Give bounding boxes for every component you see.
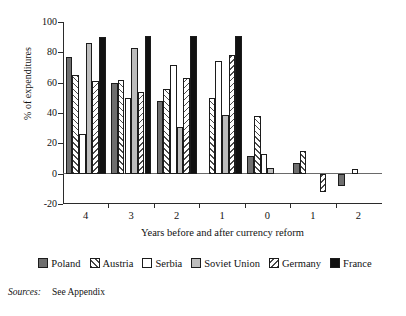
x-tick-label: 2 [343,210,373,221]
legend-item-germany[interactable]: Germany [269,258,321,269]
bar-serbia-2-6 [352,169,359,174]
x-tick-label: 0 [252,210,282,221]
legend-swatch-germany-icon [269,258,279,268]
bar-soviet-union-3-1 [131,48,138,174]
bar-poland-0-4 [247,156,254,174]
x-tick-label: 3 [116,210,146,221]
bar-france-1-3 [235,36,242,174]
x-tick-label: 2 [162,210,192,221]
source-label: Sources: [8,287,41,297]
y-tick-label: 0 [52,169,57,179]
bar-austria-1-5 [300,151,307,174]
legend-label: Austria [103,258,134,269]
bar-germany-1-5 [320,174,327,192]
y-axis-title: % of expenditures [22,24,33,144]
bar-france-2-2 [190,36,197,174]
bar-poland-2-6 [338,174,345,186]
legend-label: France [343,258,372,269]
bar-soviet-union-0-4 [267,168,274,174]
legend-label: Poland [51,258,80,269]
y-tick-label: 80 [47,47,57,57]
legend-label: Germany [282,258,321,269]
bar-serbia-2-2 [170,65,177,174]
legend-swatch-serbia-icon [142,258,152,268]
bar-poland-4-0 [66,57,73,174]
bar-austria-2-2 [163,89,170,174]
bar-france-4-0 [99,37,106,174]
legend-swatch-soviet-union-icon [191,258,201,268]
y-tick-label: 100 [42,17,57,27]
legend-item-france[interactable]: France [330,258,372,269]
chart-figure: % of expenditures 100806040200-20 432101… [0,0,406,316]
legend-item-poland[interactable]: Poland [38,258,80,269]
y-tick [58,204,63,205]
source-text: See Appendix [52,287,105,297]
legend-swatch-poland-icon [38,258,48,268]
bar-france-3-1 [145,36,152,174]
x-tick-label: 1 [298,210,328,221]
y-tick-label: -20 [44,199,57,209]
y-tick-label: 60 [47,78,57,88]
legend-swatch-france-icon [330,258,340,268]
y-tick-label: 20 [47,138,57,148]
bar-germany-2-2 [183,78,190,174]
x-axis-title: Years before and after currency reform [63,227,382,238]
chart-legend: PolandAustriaSerbiaSoviet UnionGermanyFr… [30,255,380,271]
legend-label: Soviet Union [204,258,260,269]
legend-item-serbia[interactable]: Serbia [142,258,182,269]
bar-austria-3-1 [118,80,125,174]
bar-soviet-union-4-0 [86,43,93,173]
bar-serbia-1-3 [215,61,222,173]
y-tick-label: 40 [47,108,57,118]
x-tick-label: 4 [71,210,101,221]
bar-austria-0-4 [254,116,261,174]
source-note: Sources:See Appendix [8,287,105,297]
bar-germany-3-1 [138,92,145,174]
x-tick-label: 1 [207,210,237,221]
legend-swatch-austria-icon [90,258,100,268]
plot-area [63,22,381,204]
legend-label: Serbia [155,258,182,269]
bar-soviet-union-1-3 [222,115,229,174]
legend-item-austria[interactable]: Austria [90,258,134,269]
bar-austria-4-0 [72,75,79,174]
legend-item-soviet-union[interactable]: Soviet Union [191,258,260,269]
